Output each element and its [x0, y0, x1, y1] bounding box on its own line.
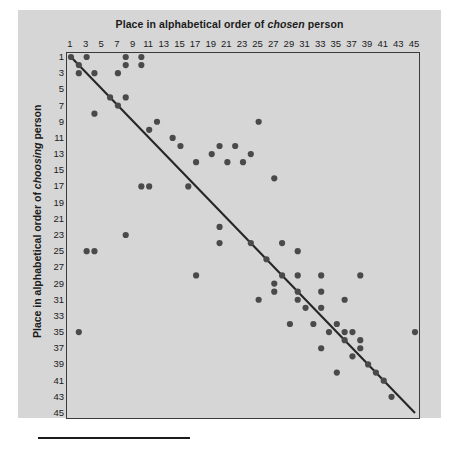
y-tick-label: 23 [53, 229, 64, 240]
scatter-point [373, 369, 379, 375]
scatter-point [349, 353, 355, 359]
y-tick-label: 43 [53, 390, 64, 401]
x-tick-label: 21 [221, 38, 232, 49]
x-tick-label: 1 [67, 38, 72, 49]
scatter-point [76, 329, 82, 335]
y-tick-label: 17 [53, 180, 64, 191]
scatter-point [216, 240, 222, 246]
scatter-point [342, 297, 348, 303]
y-tick-label: 15 [53, 164, 64, 175]
scatter-point [302, 305, 308, 311]
scatter-point [287, 321, 293, 327]
y-tick-label: 3 [59, 67, 64, 78]
trend-line [71, 57, 415, 413]
scatter-point [123, 62, 129, 68]
y-tick-label: 31 [53, 293, 64, 304]
x-tick-label: 19 [205, 38, 216, 49]
scatter-point [177, 143, 183, 149]
scatter-point [318, 289, 324, 295]
scatter-point [146, 183, 152, 189]
scatter-point [388, 394, 394, 400]
scatter-point [357, 337, 363, 343]
chart-title-emphasis: chosen [267, 18, 304, 30]
scatter-point [334, 369, 340, 375]
scatter-point [193, 159, 199, 165]
y-tick-label: 13 [53, 148, 64, 159]
scatter-point [115, 70, 121, 76]
scatter-point [279, 240, 285, 246]
x-tick-label: 23 [237, 38, 248, 49]
y-axis-title-suffix: person [31, 105, 43, 143]
scatter-point [91, 248, 97, 254]
scatter-point [107, 94, 113, 100]
y-tick-label: 5 [59, 83, 64, 94]
y-axis-title-emphasis: choosing [31, 143, 43, 190]
x-tick-label: 15 [174, 38, 185, 49]
scatter-point [256, 119, 262, 125]
y-axis-title: Place in alphabetical order of choosing … [31, 138, 43, 338]
scatter-plot-canvas [67, 53, 419, 418]
x-tick-label: 27 [268, 38, 279, 49]
scatter-point [216, 224, 222, 230]
scatter-point [138, 54, 144, 60]
scatter-point [240, 159, 246, 165]
scatter-point [91, 70, 97, 76]
x-tick-label: 25 [252, 38, 263, 49]
y-tick-label: 25 [53, 245, 64, 256]
scatter-point [342, 337, 348, 343]
y-tick-label: 37 [53, 342, 64, 353]
scatter-point [318, 345, 324, 351]
x-tick-label: 31 [299, 38, 310, 49]
scatter-point [84, 248, 90, 254]
scatter-point [318, 272, 324, 278]
scatter-point [318, 305, 324, 311]
x-tick-label: 45 [409, 38, 420, 49]
scatter-plot-area [66, 52, 420, 419]
y-tick-label: 21 [53, 212, 64, 223]
y-tick-label: 41 [53, 374, 64, 385]
y-axis-title-prefix: Place in alphabetical order of [31, 189, 43, 338]
scatter-point [138, 183, 144, 189]
y-tick-label: 29 [53, 277, 64, 288]
scatter-point [349, 329, 355, 335]
scatter-point [224, 159, 230, 165]
x-tick-label: 7 [114, 38, 119, 49]
y-axis-tick-labels: 1357911131517192123252729313335373941434… [40, 52, 64, 419]
x-tick-label: 13 [159, 38, 170, 49]
chart-title: Place in alphabetical order of chosen pe… [18, 18, 441, 30]
y-tick-label: 35 [53, 326, 64, 337]
scatter-point [263, 256, 269, 262]
chart-title-prefix: Place in alphabetical order of [116, 18, 268, 30]
scatter-point [84, 54, 90, 60]
y-tick-label: 27 [53, 261, 64, 272]
scatter-point [271, 280, 277, 286]
y-tick-label: 7 [59, 99, 64, 110]
scatter-point [123, 232, 129, 238]
scatter-point [326, 329, 332, 335]
y-tick-label: 1 [59, 51, 64, 62]
scatter-point [123, 94, 129, 100]
y-tick-label: 9 [59, 115, 64, 126]
y-tick-label: 39 [53, 358, 64, 369]
x-tick-label: 3 [83, 38, 88, 49]
x-axis-tick-labels: 1357911131517192123252729313335373941434… [66, 38, 420, 51]
scatter-point [123, 54, 129, 60]
x-tick-label: 41 [377, 38, 388, 49]
scatter-point [271, 175, 277, 181]
scatter-point [381, 378, 387, 384]
x-tick-label: 29 [284, 38, 295, 49]
scatter-point [154, 119, 160, 125]
y-tick-label: 33 [53, 309, 64, 320]
scatter-point [365, 361, 371, 367]
scatter-point [76, 62, 82, 68]
scatter-point [342, 329, 348, 335]
x-tick-label: 5 [99, 38, 104, 49]
scatter-point [216, 143, 222, 149]
scatter-point [295, 248, 301, 254]
y-tick-label: 19 [53, 196, 64, 207]
scatter-point [256, 297, 262, 303]
scatter-point [271, 289, 277, 295]
x-tick-label: 17 [190, 38, 201, 49]
scatter-point [357, 272, 363, 278]
scatter-point [115, 102, 121, 108]
